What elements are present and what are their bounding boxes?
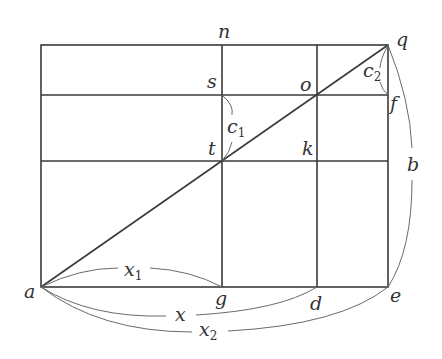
label-n: n (218, 20, 230, 42)
label-x2: x2 (199, 318, 217, 343)
label-e: e (390, 284, 401, 306)
geometry-diagram: n q s o f t k a g d e b c1 c2 x1 x x2 (0, 0, 442, 359)
label-d: d (310, 292, 322, 314)
label-b: b (407, 153, 419, 175)
label-g: g (215, 287, 227, 309)
label-x: x (175, 303, 186, 325)
label-t: t (208, 137, 216, 159)
label-f: f (388, 92, 400, 114)
label-c2: c2 (363, 59, 381, 84)
label-k: k (302, 137, 314, 159)
label-x1: x1 (124, 258, 142, 283)
label-c1: c1 (227, 115, 245, 140)
label-a: a (24, 280, 35, 302)
label-q: q (396, 28, 408, 50)
label-s: s (207, 70, 217, 92)
label-o: o (300, 73, 311, 95)
